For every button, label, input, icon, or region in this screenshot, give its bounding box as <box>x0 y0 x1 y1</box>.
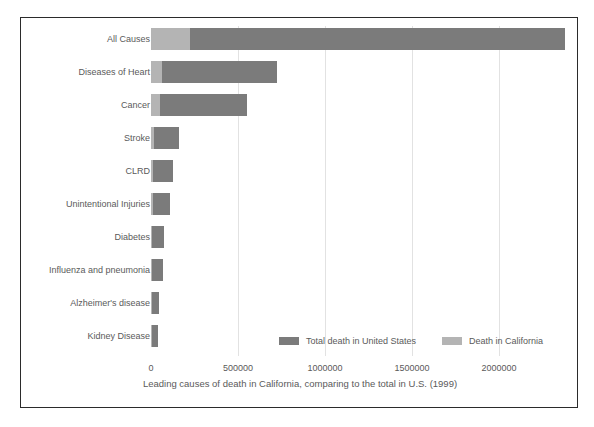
bar-segment-united-states <box>152 292 160 314</box>
legend-item: Total death in United States <box>279 336 416 346</box>
x-tick-label: 2000000 <box>454 363 544 373</box>
bar-segment-united-states <box>153 193 170 215</box>
x-tick-label: 1500000 <box>367 363 457 373</box>
bar-row <box>151 325 158 347</box>
bar-row <box>151 160 173 182</box>
chart-legend: Total death in United StatesDeath in Cal… <box>279 336 543 346</box>
x-tick-label: 0 <box>106 363 196 373</box>
bar-segment-california <box>151 61 162 83</box>
legend-item: Death in California <box>442 336 543 346</box>
bar-row <box>151 127 179 149</box>
bar-segment-united-states <box>160 94 246 116</box>
plot-area: All CausesDiseases of HeartCancerStrokeC… <box>21 18 579 409</box>
bar-segment-california <box>151 28 190 50</box>
x-tick-label: 500000 <box>193 363 283 373</box>
bars-layer <box>21 18 579 358</box>
legend-label: Death in California <box>469 336 543 346</box>
bar-segment-united-states <box>152 325 158 347</box>
bar-segment-united-states <box>153 160 172 182</box>
bar-segment-california <box>151 94 160 116</box>
legend-swatch <box>442 337 462 345</box>
bar-row <box>151 61 277 83</box>
legend-label: Total death in United States <box>306 336 416 346</box>
chart-figure-frame: All CausesDiseases of HeartCancerStrokeC… <box>20 17 578 408</box>
bar-segment-united-states <box>152 259 163 281</box>
bar-segment-united-states <box>154 127 179 149</box>
bar-row <box>151 94 247 116</box>
legend-swatch <box>279 337 299 345</box>
bar-segment-united-states <box>152 226 164 248</box>
bar-row <box>151 292 159 314</box>
x-tick-label: 1000000 <box>280 363 370 373</box>
bar-row <box>151 226 164 248</box>
bar-segment-united-states <box>190 28 565 50</box>
x-axis-title: Leading causes of death in California, c… <box>21 378 579 389</box>
bar-row <box>151 28 565 50</box>
bar-row <box>151 259 163 281</box>
bar-row <box>151 193 170 215</box>
bar-segment-united-states <box>162 61 277 83</box>
